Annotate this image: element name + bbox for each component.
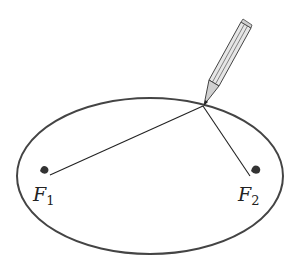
focus-f2-subscript: 2 [251, 193, 259, 208]
focus-f1-subscript: 1 [46, 193, 54, 208]
focus-f1-name: F [33, 183, 46, 205]
string-to-f1 [50, 106, 203, 175]
ellipse-diagram: F1 F2 [0, 0, 304, 274]
focus-label-f2: F2 [238, 183, 259, 208]
focus-f2-name: F [238, 183, 251, 205]
pin-f1-icon [40, 166, 49, 174]
diagram-svg [0, 0, 304, 274]
focus-label-f1: F1 [33, 183, 54, 208]
pencil-icon [204, 19, 253, 106]
ellipse-curve [17, 98, 283, 254]
pin-f2-icon [251, 166, 260, 174]
string-to-f2 [203, 106, 250, 176]
